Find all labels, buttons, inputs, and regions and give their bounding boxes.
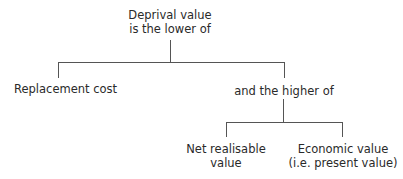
level1-horizontal-connector: [58, 62, 284, 63]
nrv-drop-connector: [226, 122, 227, 137]
economic-drop-connector: [342, 122, 343, 137]
nrv-line-2: value: [181, 156, 271, 170]
economic-line-2: (i.e. present value): [287, 156, 399, 170]
economic-line-1: Economic value: [287, 142, 399, 156]
root-node: Deprival value is the lower of: [120, 8, 220, 36]
root-stem-connector: [170, 40, 171, 62]
level2-horizontal-connector: [226, 122, 343, 123]
higher-of-stem-connector: [283, 99, 284, 122]
economic-value-node: Economic value (i.e. present value): [287, 142, 399, 170]
root-line-1: Deprival value: [120, 8, 220, 22]
net-realisable-value-node: Net realisable value: [181, 142, 271, 170]
higher-of-label: and the higher of: [234, 84, 333, 98]
higher-of-node: and the higher of: [234, 84, 334, 98]
replacement-cost-label: Replacement cost: [14, 82, 117, 96]
left-drop-connector: [58, 62, 59, 78]
replacement-cost-node: Replacement cost: [14, 82, 117, 96]
root-line-2: is the lower of: [120, 22, 220, 36]
nrv-line-1: Net realisable: [181, 142, 271, 156]
right-drop-connector: [284, 62, 285, 78]
